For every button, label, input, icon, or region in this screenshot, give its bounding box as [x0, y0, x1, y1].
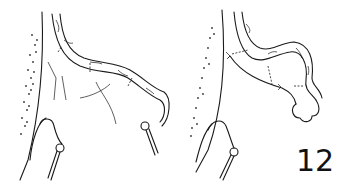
suture-thread: [80, 82, 116, 124]
figure-number: 12: [296, 146, 334, 176]
wall-line: [20, 12, 42, 180]
tubular-structure: [52, 14, 169, 126]
surgical-illustration-figure: 12: [0, 0, 344, 193]
ligature-strings: [48, 62, 66, 100]
left-drawing: [0, 0, 172, 193]
stippled-tissue: [190, 27, 215, 137]
panel-left: [0, 0, 172, 193]
retractor-hook-icon-right: [141, 122, 158, 155]
divided-segment: [230, 56, 296, 104]
retractor-hook-icon: [196, 121, 238, 180]
stippled-tissue: [20, 34, 38, 135]
tubular-structure: [232, 12, 322, 122]
